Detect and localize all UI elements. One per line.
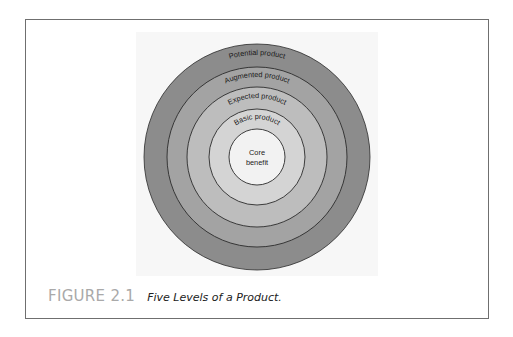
five-levels-diagram: Potential product Augmented product Expe…: [26, 20, 490, 320]
figure-frame: Potential product Augmented product Expe…: [25, 19, 489, 319]
figure-number: FIGURE 2.1: [48, 287, 135, 305]
label-core-benefit-line2: benefit: [246, 158, 268, 167]
label-core-benefit-line1: Core: [249, 148, 265, 157]
figure-caption: FIGURE 2.1 Five Levels of a Product.: [48, 287, 282, 305]
core-benefit-circle: [229, 129, 285, 185]
figure-title: Five Levels of a Product.: [147, 291, 282, 304]
